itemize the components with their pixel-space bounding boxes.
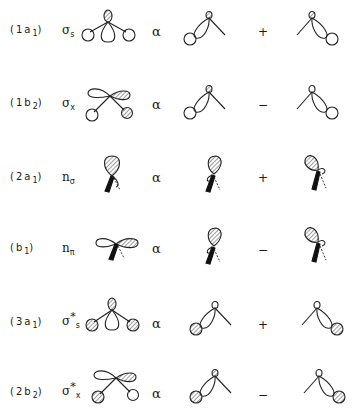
- symmetry-label: (1a1): [10, 24, 43, 38]
- orbital-diagram-sigma-s-star: [86, 296, 146, 341]
- orbital-label: nσ: [62, 170, 75, 186]
- symmetry-label: (3a1): [10, 316, 43, 330]
- row-2b2: (2b2) σ*x α −: [0, 366, 364, 413]
- row-2a1: (2a1) nσ α +: [0, 150, 364, 210]
- orbital-diagram-sigma-x: [82, 84, 142, 124]
- row-1a1: (1a1) σs α +: [0, 8, 364, 68]
- orbital-label: σx: [62, 96, 75, 112]
- right-combination-diagram: [302, 368, 362, 408]
- combination-sign: +: [258, 318, 268, 332]
- orbital-label: σs: [62, 23, 74, 39]
- left-combination-diagram: [182, 10, 232, 50]
- proportional-symbol: α: [152, 241, 161, 256]
- orbital-label: σ*s: [62, 310, 80, 330]
- symmetry-label: (1b2): [10, 97, 44, 111]
- combination-sign: +: [258, 171, 268, 185]
- left-combination-diagram: [182, 84, 232, 124]
- left-combination-diagram: [200, 222, 230, 267]
- combination-sign: −: [258, 243, 268, 257]
- symmetry-label: (2a1): [10, 171, 43, 185]
- left-combination-diagram: [200, 150, 230, 195]
- orbital-label: σ*x: [62, 380, 80, 400]
- proportional-symbol: α: [152, 170, 161, 185]
- orbital-diagram-sigma-s: [80, 8, 140, 48]
- orbital-diagram-n-pi: [94, 230, 144, 270]
- proportional-symbol: α: [152, 316, 161, 331]
- proportional-symbol: α: [152, 24, 161, 39]
- right-combination-diagram: [300, 300, 360, 340]
- orbital-label: nπ: [62, 241, 75, 257]
- row-b1: (b1) nπ α −: [0, 222, 364, 282]
- orbital-diagram-sigma-x-star: [88, 366, 148, 411]
- symmetry-label: (b1): [10, 242, 35, 256]
- combination-sign: −: [258, 388, 268, 402]
- right-combination-diagram: [300, 222, 340, 267]
- right-combination-diagram: [300, 150, 340, 195]
- row-3a1: (3a1) σ*s α +: [0, 296, 364, 356]
- right-combination-diagram: [295, 10, 355, 50]
- symmetry-label: (2b2): [10, 386, 44, 400]
- orbital-diagram-n-sigma: [100, 152, 130, 197]
- right-combination-diagram: [295, 84, 355, 124]
- left-combination-diagram: [188, 300, 238, 340]
- left-combination-diagram: [188, 368, 238, 408]
- proportional-symbol: α: [152, 97, 161, 112]
- row-1b2: (1b2) σx α −: [0, 80, 364, 140]
- combination-sign: −: [258, 98, 268, 112]
- proportional-symbol: α: [152, 386, 161, 401]
- combination-sign: +: [258, 25, 268, 39]
